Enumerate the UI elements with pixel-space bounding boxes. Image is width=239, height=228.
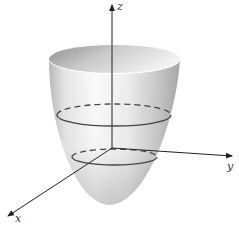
paraboloid-shading bbox=[49, 60, 180, 205]
paraboloid-opening bbox=[49, 45, 180, 73]
paraboloid-diagram: z y x bbox=[0, 0, 239, 228]
z-axis-label: z bbox=[116, 0, 123, 13]
x-axis-label: x bbox=[15, 212, 22, 225]
y-axis-label: y bbox=[226, 160, 234, 173]
